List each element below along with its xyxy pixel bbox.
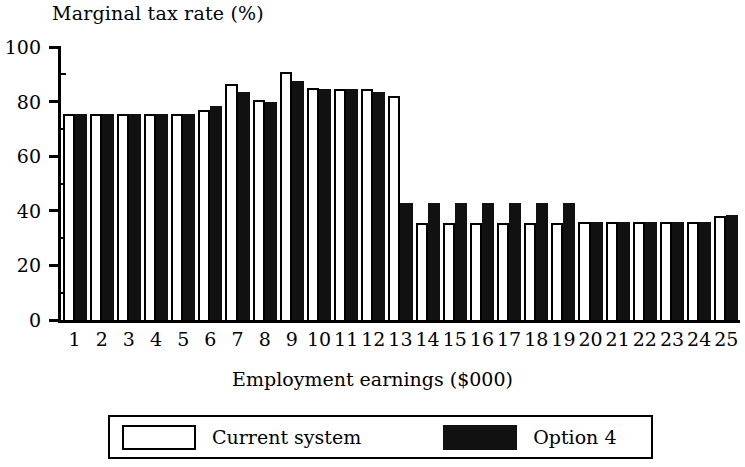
y-tick-label: 60	[17, 147, 41, 166]
bar-option-4	[400, 203, 412, 320]
bar-group	[604, 47, 631, 320]
bar-group	[441, 47, 468, 320]
bar-group	[88, 47, 115, 320]
bar-group	[197, 47, 224, 320]
bar-option-4	[129, 114, 141, 320]
x-tick-label: 4	[142, 330, 169, 349]
bar-option-4	[536, 203, 548, 320]
bar-current-system	[470, 223, 482, 320]
bar-group	[251, 47, 278, 320]
bar-group	[713, 47, 740, 320]
y-tick-major: 100	[49, 46, 61, 49]
x-tick-label: 7	[224, 330, 251, 349]
x-tick-label: 1	[61, 330, 88, 349]
x-tick-label: 13	[387, 330, 414, 349]
bar-option-4	[482, 203, 494, 320]
bar-option-4	[455, 203, 467, 320]
bar-group	[387, 47, 414, 320]
x-tick-label: 8	[251, 330, 278, 349]
y-tick-major: 0	[49, 319, 61, 322]
x-tick-label: 6	[197, 330, 224, 349]
y-tick-major: 40	[49, 209, 61, 212]
x-tick-label: 18	[523, 330, 550, 349]
legend-label-current-system: Current system	[212, 426, 361, 448]
bar-group	[577, 47, 604, 320]
bar-current-system	[578, 222, 590, 320]
bar-option-4	[210, 106, 222, 320]
bar-option-4	[292, 81, 304, 320]
y-axis-title: Marginal tax rate (%)	[52, 2, 264, 24]
bar-current-system	[361, 89, 373, 320]
bar-current-system	[633, 222, 645, 320]
y-tick-major: 60	[49, 155, 61, 158]
bar-option-4	[102, 114, 114, 320]
y-tick-label: 20	[17, 256, 41, 275]
x-tick-label: 5	[170, 330, 197, 349]
legend-entry-option-4: Option 4	[443, 417, 616, 457]
x-axis-line	[58, 320, 740, 323]
bar-group	[170, 47, 197, 320]
y-tick-label: 40	[17, 201, 41, 220]
bar-group	[414, 47, 441, 320]
bar-group	[333, 47, 360, 320]
y-tick-label: 100	[5, 38, 41, 57]
bar-group	[496, 47, 523, 320]
bar-current-system	[117, 114, 129, 320]
bar-option-4	[699, 222, 711, 320]
bar-current-system	[497, 223, 509, 320]
x-tick-label: 3	[115, 330, 142, 349]
x-tick-label: 25	[713, 330, 740, 349]
x-tick-label: 16	[468, 330, 495, 349]
bar-current-system	[253, 100, 265, 320]
x-tick-label: 2	[88, 330, 115, 349]
bar-option-4	[563, 203, 575, 320]
x-tick-label: 12	[360, 330, 387, 349]
bar-group	[523, 47, 550, 320]
bar-current-system	[416, 223, 428, 320]
bar-current-system	[443, 223, 455, 320]
bar-option-4	[672, 222, 684, 320]
x-tick-label: 10	[305, 330, 332, 349]
bar-group	[468, 47, 495, 320]
bar-option-4	[156, 114, 168, 320]
chart-legend: Current system Option 4	[108, 415, 653, 459]
x-tick-label: 22	[631, 330, 658, 349]
bar-option-4	[319, 89, 331, 320]
bar-option-4	[75, 114, 87, 320]
bar-current-system	[90, 114, 102, 320]
bar-group	[305, 47, 332, 320]
bar-current-system	[606, 222, 618, 320]
y-tick-major: 20	[49, 264, 61, 267]
x-tick-label: 15	[441, 330, 468, 349]
bar-current-system	[171, 114, 183, 320]
bar-group	[278, 47, 305, 320]
bar-current-system	[63, 114, 75, 320]
dark-swatch	[443, 425, 517, 450]
bar-group	[658, 47, 685, 320]
bar-option-4	[618, 222, 630, 320]
x-tick-label: 17	[496, 330, 523, 349]
light-swatch	[122, 425, 196, 450]
y-tick-label: 0	[29, 311, 41, 330]
y-tick-major: 80	[49, 100, 61, 103]
x-axis-title: Employment earnings ($000)	[0, 368, 745, 390]
bar-current-system	[144, 114, 156, 320]
x-tick-label: 9	[278, 330, 305, 349]
bar-option-4	[726, 215, 738, 320]
bar-group	[686, 47, 713, 320]
bar-group	[61, 47, 88, 320]
bar-option-4	[373, 92, 385, 320]
bar-group	[631, 47, 658, 320]
bar-current-system	[687, 222, 699, 320]
bar-group	[360, 47, 387, 320]
bar-group	[550, 47, 577, 320]
bar-option-4	[183, 114, 195, 320]
x-tick-label: 20	[577, 330, 604, 349]
bar-current-system	[660, 222, 672, 320]
bar-current-system	[551, 223, 563, 320]
bar-option-4	[591, 222, 603, 320]
bar-current-system	[388, 96, 400, 320]
bar-current-system	[198, 110, 210, 320]
bar-current-system	[714, 216, 726, 320]
bar-series-container	[61, 47, 740, 320]
